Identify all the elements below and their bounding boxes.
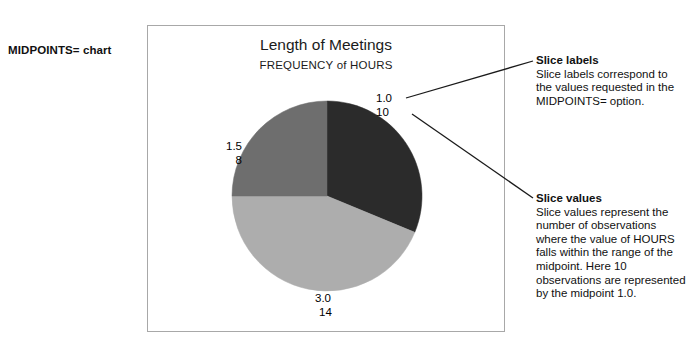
slice-label-1-0: 1.0 10	[376, 92, 392, 119]
chart-panel: Length of Meetings FREQUENCY of HOURS 1.…	[147, 25, 505, 332]
slice-midpoint: 3.0	[315, 292, 332, 306]
slice-midpoint: 1.5	[208, 140, 242, 154]
slice-count: 14	[319, 306, 332, 320]
pie-slice-group	[232, 101, 422, 291]
annotation-heading: Slice labels	[536, 54, 686, 68]
slice-label-1-5: 1.5 8	[208, 140, 242, 167]
slice-label-3-0: 3.0 14	[313, 292, 332, 319]
annotation-heading: Slice values	[536, 192, 686, 206]
annotation-slice-values: Slice values Slice values represent the …	[536, 192, 686, 301]
midpoints-caption: MIDPOINTS= chart	[8, 44, 138, 56]
slice-count: 8	[208, 154, 242, 168]
pie-slice-1-5	[232, 101, 327, 196]
pie-chart	[148, 26, 506, 333]
annotation-body: Slice values represent the number of obs…	[536, 206, 686, 301]
slice-midpoint: 1.0	[376, 92, 392, 106]
slice-count: 10	[376, 106, 392, 120]
annotation-slice-labels: Slice labels Slice labels correspond to …	[536, 54, 686, 108]
annotation-body: Slice labels correspond to the values re…	[536, 68, 686, 109]
